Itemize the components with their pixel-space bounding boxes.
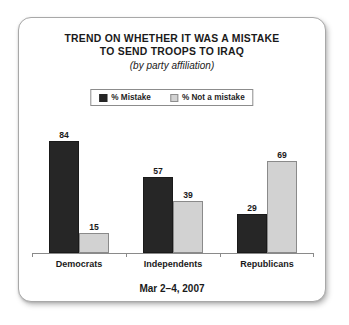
chart-subtitle: (by party affiliation) bbox=[19, 60, 325, 72]
legend-swatch-dark-icon bbox=[99, 94, 107, 102]
bar-slot: 29 bbox=[237, 120, 267, 253]
bar-value-label: 57 bbox=[153, 166, 163, 176]
category-label-republicans: Republicans bbox=[220, 259, 314, 270]
legend-item-mistake: % Mistake bbox=[99, 93, 151, 102]
category-labels: Democrats Independents Republicans bbox=[32, 259, 314, 270]
bar-value-label: 84 bbox=[59, 130, 69, 140]
bar-slot: 15 bbox=[79, 120, 109, 253]
bar-slot: 69 bbox=[267, 120, 297, 253]
bar-republicans-mistake: 29 bbox=[237, 214, 267, 253]
chart-title-block: TREND ON WHETHER IT WAS A MISTAKE TO SEN… bbox=[19, 32, 325, 72]
bar-democrats-not-a-mistake: 15 bbox=[79, 233, 109, 253]
bar-independents-not-a-mistake: 39 bbox=[173, 201, 203, 253]
bar-value-label: 15 bbox=[89, 222, 99, 232]
bar-slot: 39 bbox=[173, 120, 203, 253]
category-label-democrats: Democrats bbox=[32, 259, 126, 270]
bar-group-democrats: 84 15 bbox=[32, 120, 126, 253]
bar-value-label: 29 bbox=[247, 203, 257, 213]
legend-item-not-a-mistake: % Not a mistake bbox=[170, 93, 245, 102]
legend-label-mistake: % Mistake bbox=[111, 93, 151, 102]
axis-tick bbox=[126, 253, 127, 257]
chart-x-axis bbox=[32, 253, 314, 258]
axis-baseline bbox=[32, 253, 314, 254]
chart-card: TREND ON WHETHER IT WAS A MISTAKE TO SEN… bbox=[18, 17, 326, 302]
chart-title-line-2: TO SEND TROOPS TO IRAQ bbox=[19, 45, 325, 58]
chart-legend: % Mistake % Not a mistake bbox=[90, 89, 253, 106]
bar-value-label: 39 bbox=[183, 190, 193, 200]
bar-democrats-mistake: 84 bbox=[49, 141, 79, 253]
bar-slot: 57 bbox=[143, 120, 173, 253]
bar-group-independents: 57 39 bbox=[126, 120, 220, 253]
bar-independents-mistake: 57 bbox=[143, 177, 173, 253]
category-label-independents: Independents bbox=[126, 259, 220, 270]
axis-tick bbox=[313, 253, 314, 257]
chart-title-line-1: TREND ON WHETHER IT WAS A MISTAKE bbox=[19, 32, 325, 45]
screenshot-root: TREND ON WHETHER IT WAS A MISTAKE TO SEN… bbox=[0, 0, 349, 325]
bar-group-republicans: 29 69 bbox=[220, 120, 314, 253]
axis-tick bbox=[32, 253, 33, 257]
legend-label-not-a-mistake: % Not a mistake bbox=[182, 93, 245, 102]
legend-swatch-light-icon bbox=[170, 94, 178, 102]
bar-republicans-not-a-mistake: 69 bbox=[267, 161, 297, 253]
chart-footer-date: Mar 2–4, 2007 bbox=[19, 283, 325, 295]
bar-groups: 84 15 57 bbox=[32, 120, 314, 253]
bar-value-label: 69 bbox=[277, 150, 287, 160]
chart-plot-area: 84 15 57 bbox=[32, 120, 314, 253]
axis-tick bbox=[220, 253, 221, 257]
bar-slot: 84 bbox=[49, 120, 79, 253]
